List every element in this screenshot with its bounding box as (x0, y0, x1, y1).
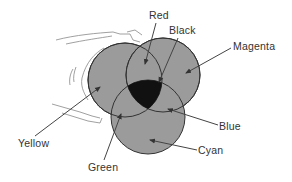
label-black: Black (169, 25, 196, 36)
label-yellow: Yellow (18, 138, 49, 149)
yellow-leader (35, 87, 100, 136)
label-blue: Blue (219, 121, 241, 132)
label-green: Green (88, 162, 118, 173)
label-magenta: Magenta (233, 41, 275, 52)
label-cyan: Cyan (198, 145, 223, 156)
label-red: Red (149, 10, 169, 21)
color-venn-diagram (0, 0, 292, 182)
